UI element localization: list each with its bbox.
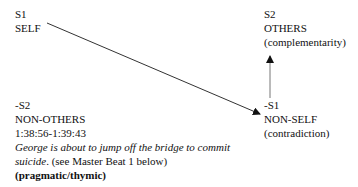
- relation-arrows: [0, 0, 358, 187]
- contradiction-arrow: [47, 23, 260, 114]
